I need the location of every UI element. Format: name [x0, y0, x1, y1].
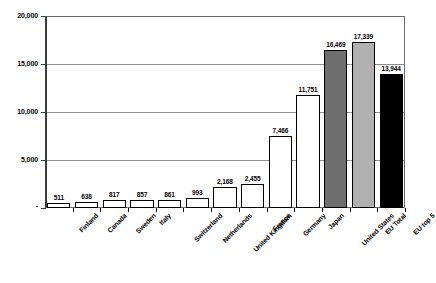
bar-value-label: 2,455 [245, 175, 261, 182]
bar-group: 2,455 [239, 16, 267, 208]
y-tick-label-15000: 15,000 [17, 60, 38, 68]
bar[interactable] [75, 202, 98, 208]
bar[interactable] [352, 42, 375, 208]
x-axis-label: Japan [326, 212, 345, 231]
x-axis-label: France [271, 212, 292, 233]
bar-value-label: 993 [192, 189, 203, 196]
bar-value-label: 13,944 [382, 65, 401, 72]
bar-group: 2,168 [211, 16, 239, 208]
bar-group: 861 [156, 16, 184, 208]
bar-value-label: 16,469 [326, 41, 345, 48]
y-tick-label-5000: 5,000 [21, 156, 38, 164]
bar-group: 817 [100, 16, 128, 208]
y-tick-label-zero: - [36, 202, 38, 210]
bar[interactable] [158, 200, 181, 208]
x-axis-label: Canada [106, 212, 129, 235]
bar[interactable] [380, 74, 403, 208]
bar[interactable] [324, 50, 347, 208]
bar-value-label: 11,751 [299, 86, 318, 93]
y-tick-label-20000: 20,000 [17, 12, 38, 20]
bar-value-label: 861 [164, 191, 175, 198]
x-tick-mark [405, 208, 406, 212]
bar-value-label: 857 [137, 191, 148, 198]
bar[interactable] [241, 184, 264, 208]
bar[interactable] [130, 200, 153, 208]
x-axis-label: Sweden [134, 212, 157, 235]
bar-group: 638 [73, 16, 101, 208]
bar[interactable] [296, 95, 319, 208]
bars-container: 5116388178578619932,1682,4557,46611,7511… [45, 16, 405, 208]
bar-value-label: 817 [109, 191, 120, 198]
bar-group: 17,339 [350, 16, 378, 208]
bar-group: 16,469 [322, 16, 350, 208]
y-tick-mark-zero [41, 208, 46, 209]
y-axis: 20,000 15,000 10,000 5,000 - [0, 0, 38, 283]
bar-value-label: 7,466 [272, 127, 288, 134]
bar[interactable] [269, 136, 292, 208]
bar-group: 11,751 [294, 16, 322, 208]
bar[interactable] [186, 198, 209, 208]
bar[interactable] [47, 203, 70, 208]
bar-group: 7,466 [267, 16, 295, 208]
bar-group: 857 [128, 16, 156, 208]
x-axis-label: Germany [301, 212, 327, 238]
bar[interactable] [213, 187, 236, 208]
x-axis-labels: FinlandCanadaSwedenItalySwitzerlandNethe… [45, 212, 405, 282]
bar-group: 993 [183, 16, 211, 208]
x-axis-label: Finland [78, 212, 100, 234]
bar-group: 511 [45, 16, 73, 208]
x-axis-label: EU top 5 [411, 212, 436, 237]
bar[interactable] [103, 200, 126, 208]
x-axis-label: Switzerland [193, 212, 225, 244]
x-axis-label: Italy [158, 212, 173, 227]
bar-value-label: 17,339 [354, 33, 373, 40]
y-tick-label-10000: 10,000 [17, 108, 38, 116]
x-axis-label: Netherlands [221, 212, 254, 245]
bar-value-label: 638 [81, 193, 92, 200]
bar-group: 13,944 [377, 16, 405, 208]
bar-value-label: 511 [54, 194, 64, 201]
bar-value-label: 2,168 [217, 178, 233, 185]
